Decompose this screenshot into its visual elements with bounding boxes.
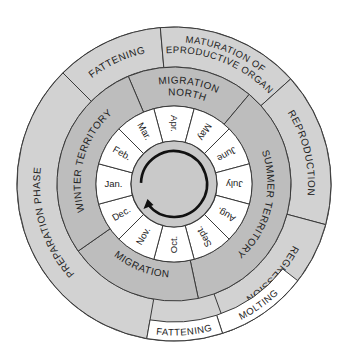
annual-cycle-diagram: FATTENINGMATURATION OFREPRODUCTIVE ORGAN… [0, 0, 342, 360]
cycle-wheel: FATTENINGMATURATION OFREPRODUCTIVE ORGAN… [0, 0, 342, 360]
month-label: Oct. [168, 236, 179, 253]
month-label: Jan. [105, 178, 123, 189]
month-label: Apr. [169, 115, 180, 132]
hub [131, 141, 217, 227]
month-label: July [226, 179, 243, 190]
